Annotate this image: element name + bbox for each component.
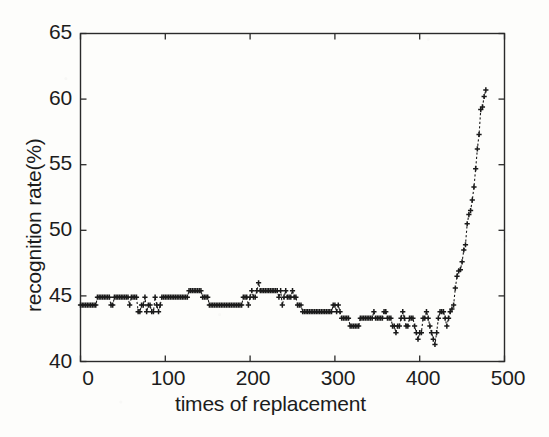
y-tick-label-60: 60 bbox=[22, 86, 72, 110]
data-point-marker bbox=[427, 323, 432, 328]
x-tick-label-100: 100 bbox=[143, 366, 193, 390]
x-tick-label-300: 300 bbox=[313, 366, 363, 390]
y-tick-label-40: 40 bbox=[22, 349, 72, 373]
data-point-marker bbox=[475, 146, 480, 151]
x-tick-label-500: 500 bbox=[483, 366, 533, 390]
data-point-marker bbox=[246, 302, 251, 307]
data-point-marker bbox=[473, 166, 478, 171]
data-point-marker bbox=[446, 316, 451, 321]
data-point-marker bbox=[402, 316, 407, 321]
data-point-marker bbox=[453, 285, 458, 290]
data-point-marker bbox=[429, 330, 434, 335]
data-point-marker bbox=[249, 288, 254, 293]
data-point-marker bbox=[415, 337, 420, 342]
x-axis-title: times of replacement bbox=[175, 392, 366, 416]
data-point-marker bbox=[283, 288, 288, 293]
data-point-marker bbox=[142, 295, 147, 300]
y-tick-label-65: 65 bbox=[22, 20, 72, 44]
data-point-marker bbox=[336, 302, 341, 307]
data-point-marker bbox=[290, 288, 295, 293]
data-point-marker bbox=[476, 132, 481, 137]
data-point-marker bbox=[460, 259, 465, 264]
data-point-marker bbox=[412, 323, 417, 328]
data-point-marker bbox=[256, 280, 261, 285]
data-point-marker bbox=[393, 330, 398, 335]
data-point-marker bbox=[434, 330, 439, 335]
data-point-marker bbox=[444, 323, 449, 328]
data-point-marker bbox=[471, 184, 476, 189]
x-tick-label-400: 400 bbox=[398, 366, 448, 390]
x-tick-label-0: 0 bbox=[73, 366, 103, 390]
data-point-marker bbox=[280, 302, 285, 307]
data-point-marker bbox=[424, 309, 429, 314]
data-point-marker bbox=[144, 309, 149, 314]
data-point-marker bbox=[426, 316, 431, 321]
data-point-marker bbox=[278, 288, 283, 293]
data-point-marker bbox=[483, 87, 488, 92]
x-tick-label-200: 200 bbox=[228, 366, 278, 390]
data-point-marker bbox=[158, 302, 163, 307]
data-point-marker bbox=[371, 309, 376, 314]
data-point-marker bbox=[463, 242, 468, 247]
series-markers-recognition-rate bbox=[78, 87, 489, 347]
data-point-marker bbox=[482, 94, 487, 99]
data-point-marker bbox=[454, 274, 459, 279]
data-point-marker bbox=[470, 198, 475, 203]
data-point-marker bbox=[156, 309, 161, 314]
data-point-marker bbox=[153, 295, 158, 300]
data-point-marker bbox=[337, 309, 342, 314]
data-point-marker bbox=[127, 302, 132, 307]
figure-canvas: 65 60 55 50 45 40 0 100 200 300 400 500 … bbox=[0, 0, 549, 437]
data-point-marker bbox=[400, 309, 405, 314]
data-point-marker bbox=[465, 221, 470, 226]
data-point-marker bbox=[432, 342, 437, 347]
y-axis-title: recognition rate(%) bbox=[22, 138, 46, 312]
data-point-marker bbox=[436, 316, 441, 321]
data-point-marker bbox=[461, 247, 466, 252]
